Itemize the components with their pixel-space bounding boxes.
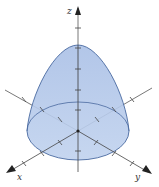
z-axis-label: z — [66, 6, 72, 16]
y-axis-arrow-icon — [142, 165, 152, 174]
z-axis-arrow-icon — [75, 6, 81, 15]
paraboloid-diagram: z x y — [0, 0, 159, 187]
x-axis-label: x — [17, 172, 22, 182]
x-axis-arrow-icon — [6, 165, 16, 173]
origin-point — [76, 129, 79, 132]
y-axis-label: y — [134, 172, 141, 182]
